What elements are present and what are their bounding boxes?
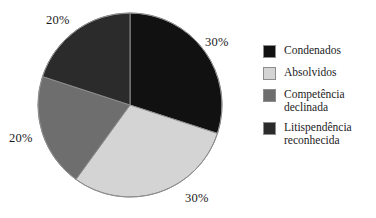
- legend-swatch-icon-litispendencia-reconhecida: [263, 122, 276, 135]
- chart-legend: Condenados Absolvidos Competência declin…: [263, 44, 373, 146]
- legend-item-litispendencia-reconhecida[interactable]: Litispendência reconhecida: [263, 121, 373, 146]
- legend-item-absolvidos[interactable]: Absolvidos: [263, 66, 373, 80]
- pie-value-label-absolvidos: 30%: [185, 192, 209, 205]
- legend-item-condenados[interactable]: Condenados: [263, 44, 373, 58]
- pie-chart-svg: [0, 0, 250, 218]
- legend-label-absolvidos: Absolvidos: [284, 66, 336, 79]
- legend-swatch-icon-absolvidos: [263, 67, 276, 80]
- legend-swatch-icon-condenados: [263, 45, 276, 58]
- pie-value-label-litispendencia: 20%: [46, 14, 70, 27]
- pie-value-label-condenados: 30%: [205, 36, 229, 49]
- pie-value-label-competencia: 20%: [9, 132, 33, 145]
- legend-label-competencia-declinada: Competência declinada: [284, 88, 345, 113]
- legend-swatch-icon-competencia-declinada: [263, 89, 276, 102]
- legend-item-competencia-declinada[interactable]: Competência declinada: [263, 88, 373, 113]
- legend-label-condenados: Condenados: [284, 44, 341, 57]
- pie-chart-plot-area: 20% 30% 20% 30%: [0, 0, 250, 218]
- pie-chart-figure: 20% 30% 20% 30% Condenados Absolvidos Co…: [0, 0, 376, 218]
- legend-label-litispendencia-reconhecida: Litispendência reconhecida: [284, 121, 352, 146]
